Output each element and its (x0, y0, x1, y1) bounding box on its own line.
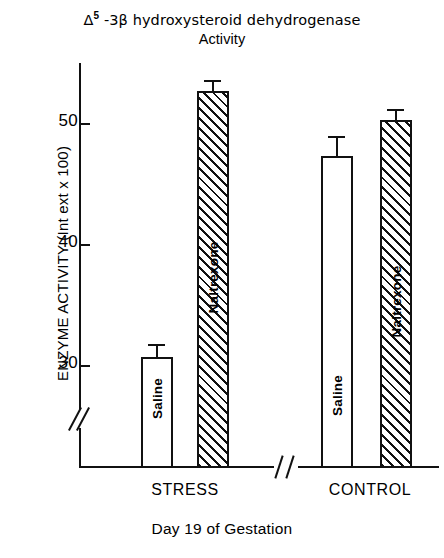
error-cap-control-naltrexone (387, 109, 404, 111)
bar-label-control-saline: Saline (330, 366, 345, 426)
group-label-control: CONTROL (310, 481, 430, 499)
chart-title-delta: Δ (84, 12, 94, 28)
group-label-stress: STRESS (125, 481, 245, 499)
error-stem-stress-saline (156, 344, 158, 358)
bar-label-stress-naltrexone: Naltrexone (206, 233, 221, 323)
y-tick-30 (81, 365, 90, 367)
bar-label-control-naltrexone: Naltrexone (389, 257, 404, 347)
chart-title-rest: -3β hydroxysteroid dehydrogenase (99, 12, 360, 28)
figure: Δ5 -3β hydroxysteroid dehydrogenase Acti… (0, 0, 444, 558)
y-tick-40 (81, 244, 90, 246)
y-tick-50 (81, 123, 90, 125)
error-cap-stress-naltrexone (204, 80, 221, 82)
chart-title-line2: Activity (0, 30, 444, 49)
bar-label-stress-saline: Saline (150, 369, 165, 429)
error-cap-control-saline (328, 136, 345, 138)
error-stem-control-saline (336, 136, 338, 157)
x-axis-label: Day 19 of Gestation (0, 520, 444, 538)
y-axis-label: ENZYME ACTIVITY (Int ext x 100) (54, 104, 71, 424)
chart-title-line1: Δ5 -3β hydroxysteroid dehydrogenase (0, 6, 444, 30)
chart-title: Δ5 -3β hydroxysteroid dehydrogenase Acti… (0, 6, 444, 49)
error-cap-stress-saline (148, 344, 165, 346)
